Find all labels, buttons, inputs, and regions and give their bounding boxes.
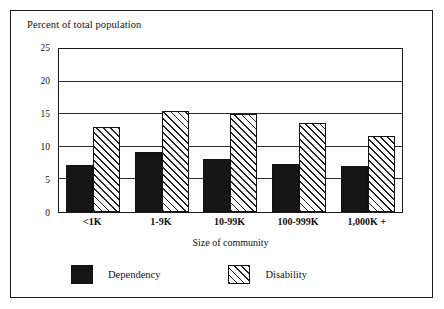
x-tick-label: 1,000K + [347,216,385,227]
y-tick-label: 10 [41,142,51,152]
legend-swatch-disability-icon [228,265,250,284]
bar-disability-4[interactable] [368,136,395,212]
bar-disability-3[interactable] [299,123,326,212]
chart-figure: Percent of total population 0510152025 <… [10,10,433,298]
bar-dependency-0[interactable] [66,165,93,212]
x-tick-label: 10-99K [214,216,245,227]
plot-area [58,48,403,213]
y-tick-label: 0 [45,208,50,218]
x-axis-tick-labels: <1K1-9K10-99K100-999K1,000K + [58,216,403,232]
legend-swatch-dependency-icon [71,265,93,284]
y-tick-label: 5 [45,175,50,185]
bar-group [196,49,265,212]
bars-layer [59,49,402,212]
legend-item-dependency: Dependency [71,265,160,284]
x-tick-label: 100-999K [278,216,319,227]
bar-group [59,49,128,212]
bar-group [333,49,402,212]
bar-disability-1[interactable] [162,111,189,212]
x-tick-label: <1K [83,216,101,227]
bar-group [265,49,334,212]
bar-dependency-3[interactable] [272,164,299,212]
y-axis-tick-labels: 0510152025 [11,48,56,213]
y-tick-label: 25 [41,43,51,53]
bar-dependency-1[interactable] [135,152,162,212]
bar-disability-0[interactable] [93,127,120,212]
x-tick-label: 1-9K [150,216,171,227]
bar-dependency-4[interactable] [341,166,368,212]
y-tick-label: 15 [41,109,51,119]
chart-legend: Dependency Disability [58,261,403,287]
x-axis-title: Size of community [58,237,403,248]
legend-label-dependency: Dependency [108,269,160,280]
legend-label-disability: Disability [265,269,306,280]
bar-dependency-2[interactable] [203,159,230,212]
legend-item-disability: Disability [228,265,306,284]
chart-title: Percent of total population [27,19,141,30]
y-tick-label: 20 [41,76,51,86]
bar-disability-2[interactable] [230,114,257,212]
bar-group [128,49,197,212]
